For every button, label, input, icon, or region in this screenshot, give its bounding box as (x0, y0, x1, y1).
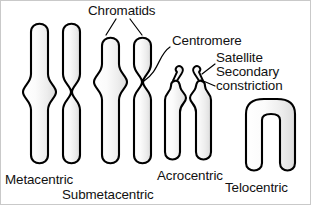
label-submetacentric: Submetacentric (62, 187, 154, 202)
label-constriction: constriction (216, 78, 283, 93)
submetacentric-body (94, 38, 127, 164)
label-telocentric: Telocentric (225, 180, 288, 195)
metacentric-sister-chromatid (63, 24, 80, 164)
label-acrocentric: Acrocentric (157, 168, 223, 183)
label-metacentric: Metacentric (5, 172, 74, 187)
acrocentric-sister-chromatid (190, 81, 211, 160)
metacentric-body (23, 24, 56, 164)
chromosome-metacentric (23, 24, 80, 164)
chromosome-telocentric (246, 99, 295, 171)
acrocentric-body (165, 81, 186, 160)
label-satellite: Satellite (216, 50, 263, 65)
chromosome-types-diagram: Chromatids Centromere Satellite Secondar… (0, 0, 311, 205)
submetacentric-sister-chromatid (134, 38, 151, 164)
leader-chromatid-left (106, 19, 116, 35)
chromosome-submetacentric (94, 38, 151, 164)
leader-chromatid-right (130, 19, 142, 35)
label-centromere: Centromere (172, 33, 242, 48)
telocentric-body (246, 99, 295, 171)
label-chromatids: Chromatids (88, 3, 156, 18)
chromosome-acrocentric (165, 66, 211, 159)
diagram-canvas: Chromatids Centromere Satellite Secondar… (0, 0, 311, 205)
label-secondary: Secondary (216, 64, 280, 79)
leader-satellite (202, 64, 215, 74)
